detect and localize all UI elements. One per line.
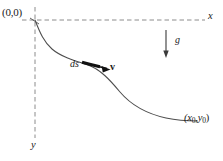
y-axis-label: y: [31, 140, 36, 151]
endpoint-label: (x0,y0): [184, 113, 209, 125]
gravity-arrow-head: [163, 51, 168, 59]
gravity-label: g: [175, 35, 180, 45]
physics-diagram-figure: (0,0) (x0,y0) x y g ds v: [0, 0, 223, 161]
origin-label: (0,0): [2, 7, 22, 18]
x-axis-label: x: [208, 11, 213, 22]
diagram-canvas: [0, 0, 223, 161]
descent-curve: [35, 20, 197, 121]
velocity-label: v: [110, 62, 115, 72]
arc-element-label: ds: [70, 59, 79, 69]
endpoint-label-suffix: ): [206, 112, 209, 123]
endpoint-label-prefix: (x: [184, 112, 192, 123]
